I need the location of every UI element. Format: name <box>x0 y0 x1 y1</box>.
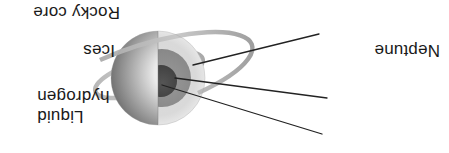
label-rocky-core: Rocky core <box>33 2 120 22</box>
label-liquid-hydrogen-line1: Liquid <box>37 107 84 126</box>
diagram-canvas: Rocky core Ices Liquidhydrogen Neptune <box>0 0 449 153</box>
label-liquid-hydrogen-line2: hydrogen <box>37 87 110 106</box>
label-planet-name: Neptune <box>374 40 440 60</box>
figure-root: Rocky core Ices Liquidhydrogen Neptune <box>0 0 449 153</box>
planet-artwork <box>0 0 449 153</box>
label-liquid-hydrogen: Liquidhydrogen <box>37 86 123 126</box>
label-ices: Ices <box>83 40 115 60</box>
leader-line-liquid-hydrogen <box>193 34 319 65</box>
